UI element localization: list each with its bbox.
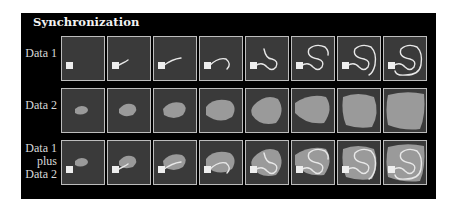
frame-data1-2 (107, 36, 151, 81)
frame-data1-8 (383, 36, 427, 81)
frame-data1-4 (199, 36, 243, 81)
frame-combined-5 (245, 140, 289, 185)
frame-combined-3 (153, 140, 197, 185)
frame-data2-2 (107, 88, 151, 133)
frame-data1-1 (61, 36, 105, 81)
frame-data2-7 (337, 88, 381, 133)
frame-data2-4 (199, 88, 243, 133)
frame-data1-3 (153, 36, 197, 81)
frame-combined-8 (383, 140, 427, 185)
synchronization-figure: Synchronization Data 1 Data 2 Data 1 plu… (21, 13, 436, 199)
frame-combined-1 (61, 140, 105, 185)
frame-data1-6 (291, 36, 335, 81)
frame-data2-8 (383, 88, 427, 133)
figure-title: Synchronization (33, 15, 139, 29)
frame-data2-6 (291, 88, 335, 133)
frame-combined-4 (199, 140, 243, 185)
frame-data2-5 (245, 88, 289, 133)
frame-data2-3 (153, 88, 197, 133)
frame-combined-7 (337, 140, 381, 185)
frame-combined-2 (107, 140, 151, 185)
frame-combined-6 (291, 140, 335, 185)
row-label-data2: Data 2 (17, 99, 57, 112)
row-label-data1: Data 1 (17, 47, 57, 60)
frame-data1-5 (245, 36, 289, 81)
row-label-combined: Data 1 plus Data 2 (17, 142, 57, 181)
frame-data1-7 (337, 36, 381, 81)
frame-data2-1 (61, 88, 105, 133)
